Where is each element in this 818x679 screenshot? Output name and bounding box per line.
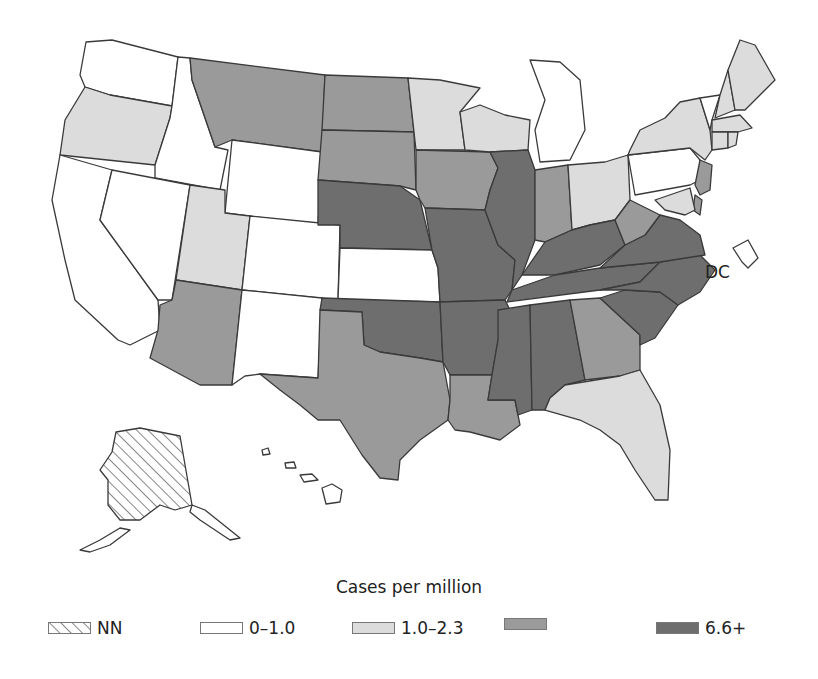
- state-ct: [712, 132, 728, 150]
- legend-item-nn: NN: [48, 618, 122, 638]
- state-nd: [322, 75, 414, 132]
- hatch-swatch-icon: [48, 622, 91, 634]
- state-ny: [628, 98, 712, 160]
- legend-label: 6.6+: [705, 618, 746, 638]
- aleutian-islands: [80, 528, 130, 552]
- state-co: [242, 216, 340, 300]
- hawaii-island-4: [262, 448, 270, 455]
- hawaii-island-3: [285, 462, 296, 468]
- dark-gray-swatch-icon: [656, 622, 699, 634]
- state-dc-inset: [733, 240, 758, 268]
- state-fl: [545, 370, 670, 500]
- legend-item-unlabeled: [504, 618, 553, 630]
- state-ks: [338, 248, 440, 302]
- legend-title: Cases per million: [0, 577, 818, 597]
- state-ia: [416, 150, 498, 210]
- dc-label: DC: [705, 262, 730, 282]
- state-me: [728, 40, 775, 110]
- state-md: [655, 188, 695, 215]
- legend: NN 0–1.0 1.0–2.3 6.6+: [0, 618, 818, 642]
- legend-item-1-2-3: 1.0–2.3: [352, 618, 464, 638]
- legend-label: NN: [97, 618, 122, 638]
- state-wy: [225, 140, 322, 225]
- legend-label: 1.0–2.3: [401, 618, 464, 638]
- legend-label: 0–1.0: [249, 618, 295, 638]
- state-ma: [712, 115, 752, 132]
- state-mi: [530, 60, 585, 162]
- white-swatch-icon: [200, 622, 243, 634]
- light-gray-swatch-icon: [352, 622, 395, 634]
- state-in: [535, 165, 572, 242]
- mid-gray-swatch-icon: [504, 618, 547, 630]
- state-ri: [728, 132, 738, 148]
- hawaii-island-2: [300, 474, 318, 482]
- state-hi: [322, 484, 342, 504]
- state-ak: [100, 428, 192, 520]
- state-nm: [232, 290, 322, 385]
- alaska-panhandle: [190, 505, 240, 540]
- state-wi: [460, 105, 530, 152]
- legend-item-0-1: 0–1.0: [200, 618, 295, 638]
- legend-item-6-6-plus: 6.6+: [656, 618, 746, 638]
